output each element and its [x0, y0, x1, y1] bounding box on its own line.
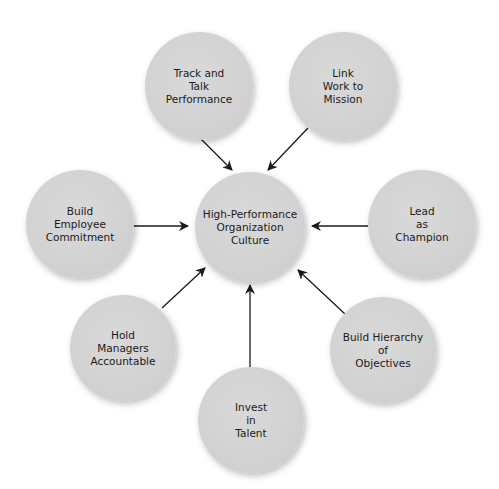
node-lead-as-champion: Lead as Champion: [368, 170, 476, 278]
node-label: Build Employee Commitment: [31, 205, 128, 244]
node-label: Invest in Talent: [203, 401, 298, 440]
diagram-canvas: High-Performance Organization Culture Tr…: [0, 0, 499, 489]
node-label: Hold Managers Accountable: [75, 329, 170, 368]
arrow-hold-to-center: [162, 268, 205, 308]
node-build-employee-commitment: Build Employee Commitment: [26, 170, 134, 278]
node-label: Build Hierarchy of Objectives: [335, 331, 430, 370]
node-track-and-talk-performance: Track and Talk Performance: [145, 32, 253, 140]
node-label: Lead as Champion: [373, 205, 470, 244]
node-build-hierarchy-of-objectives: Build Hierarchy of Objectives: [330, 297, 436, 403]
node-label: Track and Talk Performance: [150, 67, 247, 106]
center-label: High-Performance Organization Culture: [201, 208, 300, 247]
node-hold-managers-accountable: Hold Managers Accountable: [70, 295, 176, 401]
arrow-link-to-center: [268, 128, 308, 170]
node-center-hpo-culture: High-Performance Organization Culture: [195, 172, 305, 282]
arrow-hier-to-center: [298, 270, 345, 314]
node-label: Link Work to Mission: [294, 67, 391, 106]
node-invest-in-talent: Invest in Talent: [198, 367, 304, 473]
node-link-work-to-mission: Link Work to Mission: [289, 32, 397, 140]
